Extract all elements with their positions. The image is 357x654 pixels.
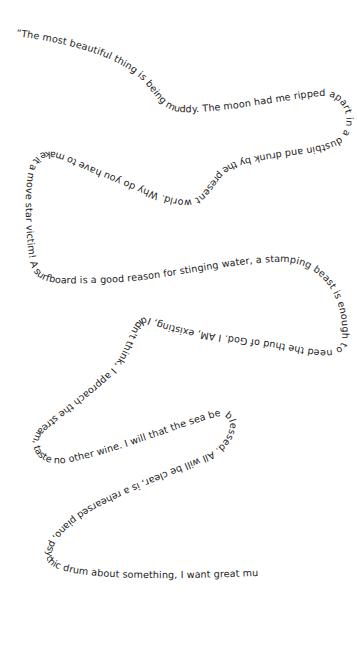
poem-text-path: “The most beautiful thing is being muddy… bbox=[0, 0, 356, 580]
poem-canvas: “The most beautiful thing is being muddy… bbox=[0, 0, 357, 654]
poem-text: “The most beautiful thing is being muddy… bbox=[0, 0, 356, 580]
